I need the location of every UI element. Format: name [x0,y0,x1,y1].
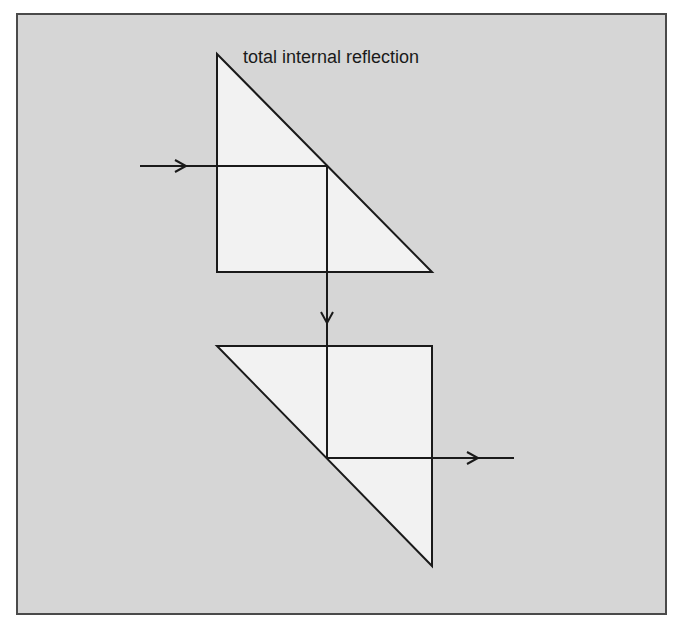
upper-prism [217,54,432,272]
annotation-total-internal-reflection: total internal reflection [243,47,419,68]
light-ray [140,166,514,458]
prism-diagram [0,0,679,638]
lower-prism [217,346,432,566]
